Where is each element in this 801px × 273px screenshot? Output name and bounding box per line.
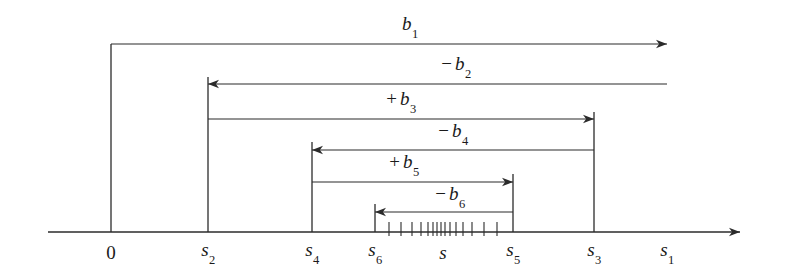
axis-tick-label-ts4: s4	[305, 240, 319, 263]
axis-tick-label-t0: 0	[106, 243, 116, 262]
bar-label-b2: −b2	[441, 54, 471, 77]
bar-label-b3: +b3	[386, 89, 416, 112]
diagram-canvas	[0, 0, 801, 273]
bar-label-b6: −b6	[435, 184, 465, 207]
axis-tick-label-ts6: s6	[368, 240, 382, 263]
bar-label-b1: b1	[402, 14, 418, 37]
bar-label-b5: +b5	[389, 152, 419, 175]
axis-tick-label-ts3: s3	[587, 240, 601, 263]
axis-tick-label-ts: s	[439, 243, 446, 262]
axis-tick-label-ts5: s5	[506, 240, 520, 263]
axis-tick-label-ts1: s1	[660, 240, 674, 263]
bar-label-b4: −b4	[438, 121, 468, 144]
axis-tick-label-ts2: s2	[201, 240, 215, 263]
interval-diagram-figure: b1−b2+b3−b4+b5−b60s2s4s6ss5s3s1	[0, 0, 801, 273]
